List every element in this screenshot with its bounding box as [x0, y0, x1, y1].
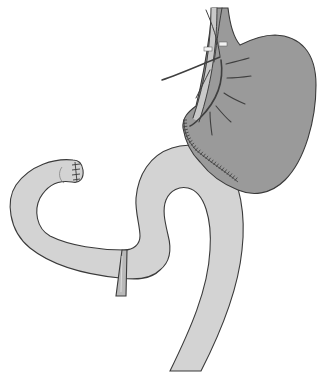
vessel-clip [204, 47, 212, 51]
vessel-clip [219, 42, 227, 46]
surgical-illustration [0, 0, 324, 387]
staple [183, 126, 187, 127]
